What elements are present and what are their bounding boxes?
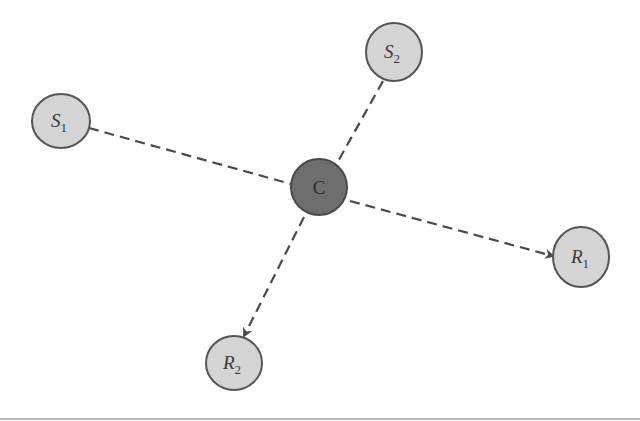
edge-c-r2-arrow — [244, 217, 304, 336]
node-r1: R1 — [553, 227, 609, 287]
edge-c-r1-arrow — [350, 201, 553, 256]
relay-diagram: S1 S2 C R1 R2 — [0, 0, 640, 421]
edge-s1-c — [89, 128, 291, 184]
edge-s2-c — [336, 81, 383, 165]
node-r2: R2 — [206, 336, 262, 390]
node-s1: S1 — [32, 94, 90, 148]
node-s2: S2 — [366, 23, 422, 81]
bottom-divider — [0, 418, 640, 420]
node-c: C — [291, 159, 347, 215]
node-c-label: C — [313, 177, 326, 198]
